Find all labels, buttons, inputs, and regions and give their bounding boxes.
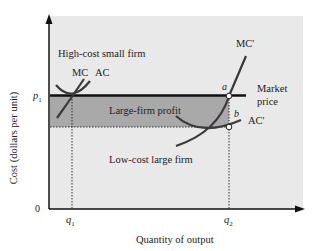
q1-tick-label: q1 xyxy=(66,214,75,228)
ac-prime-label: AC' xyxy=(248,115,265,126)
mc-prime-label: MC' xyxy=(236,38,254,49)
y-axis-title: Cost (dollars per unit) xyxy=(8,91,20,184)
mc-label: MC xyxy=(72,67,88,78)
point-a-label: a xyxy=(222,81,227,92)
large-firm-label: Low-cost large firm xyxy=(109,154,193,165)
cost-curves-chart: High-cost small firm MC AC MC' a b Marke… xyxy=(0,0,321,251)
market-price-label-line1: Market xyxy=(257,83,287,94)
p1-tick-label: p1 xyxy=(32,90,42,104)
ac-label: AC xyxy=(95,67,110,78)
point-b-label: b xyxy=(234,108,239,119)
profit-label: Large-firm profit xyxy=(109,105,181,116)
small-firm-label: High-cost small firm xyxy=(58,48,146,59)
origin-label: 0 xyxy=(35,203,40,214)
market-price-label-line2: price xyxy=(257,96,278,107)
point-a-marker xyxy=(226,93,232,99)
point-b-marker xyxy=(226,124,232,130)
q2-tick-label: q2 xyxy=(224,214,233,228)
x-axis-title: Quantity of output xyxy=(136,234,214,245)
